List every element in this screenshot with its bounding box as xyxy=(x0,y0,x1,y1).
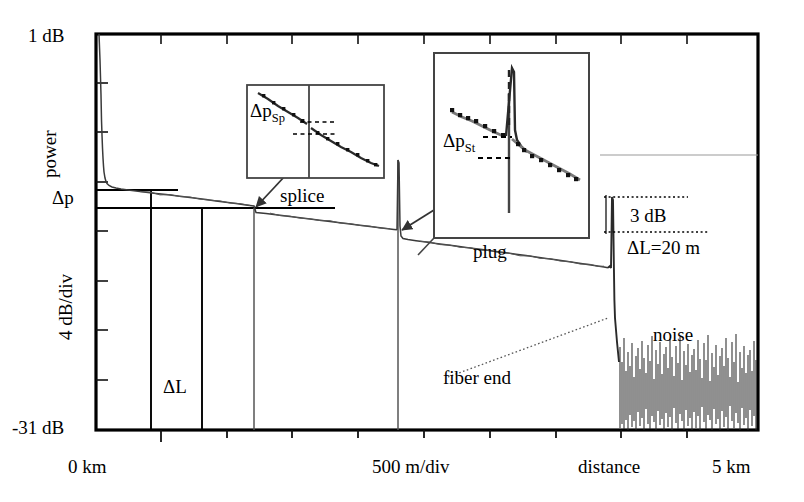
inset-splice xyxy=(247,85,384,178)
x-axis-title: distance xyxy=(578,457,640,476)
inset-plug-loss-base: Δp xyxy=(443,130,465,151)
x-axis-left-label: 0 km xyxy=(68,457,107,476)
plot-frame xyxy=(96,34,758,430)
x-axis-scale-title: 500 m/div xyxy=(372,457,450,476)
fiber-end-label: fiber end xyxy=(443,368,511,387)
inset-plug-loss-subscript: St xyxy=(465,141,475,155)
inset-splice-loss-subscript: Sp xyxy=(272,111,285,125)
event-cursors xyxy=(254,160,398,430)
delta-p-label: Δp xyxy=(52,188,74,207)
plug-caption: plug xyxy=(473,242,507,261)
splice-caption: splice xyxy=(280,186,324,205)
inset-splice-loss-symbol: ΔpSp xyxy=(250,101,285,124)
noise-floor xyxy=(620,334,756,430)
x-axis-right-label: 5 km xyxy=(712,457,751,476)
y-axis-scale-title: 4 dB/div xyxy=(56,274,75,340)
delta-L-label: ΔL xyxy=(163,377,187,396)
bottom-axis-ticks xyxy=(161,430,687,442)
noise-label: noise xyxy=(653,325,693,344)
y-axis-top-label: 1 dB xyxy=(28,26,64,45)
dead-zone-label: ΔL=20 m xyxy=(627,238,700,257)
y-axis-title: power xyxy=(40,131,59,178)
y-axis-bottom-label: -31 dB xyxy=(12,418,64,437)
reflection-db-label: 3 dB xyxy=(630,206,666,225)
otdr-figure: 1 dB -31 dB power 4 dB/div 0 km 500 m/di… xyxy=(0,0,804,502)
inset-plug-loss-symbol: ΔpSt xyxy=(443,131,475,154)
inset-splice-loss-base: Δp xyxy=(250,100,272,121)
